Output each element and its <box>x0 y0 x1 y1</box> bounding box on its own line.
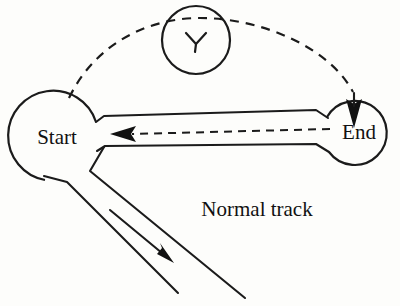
start-label: Start <box>37 125 77 149</box>
node-waypoint[interactable] <box>162 6 230 74</box>
waypoint-chevron-icon <box>186 33 206 44</box>
diverging-track-rails <box>44 147 245 298</box>
dashed-arc-path <box>69 18 353 98</box>
normal-track-lower-rail <box>97 144 329 152</box>
normal-track-upper-rail <box>96 110 328 122</box>
normal-track-label: Normal track <box>201 197 313 221</box>
diverging-track-outer-rail <box>44 176 178 293</box>
dashed-return-path <box>132 129 330 134</box>
waypoint-chevron-stem <box>195 44 196 52</box>
waypoint-circle-outline <box>162 6 230 74</box>
diverging-track-inner-rail <box>90 147 245 298</box>
diagonal-arrow-head <box>157 243 174 263</box>
node-start[interactable]: Start <box>8 91 96 180</box>
diagonal-arrow-down-right-icon <box>110 210 174 263</box>
dashed-return-edge <box>110 126 330 142</box>
end-label: End <box>342 120 376 144</box>
track-diagram: Start End Normal track <box>0 0 400 306</box>
diagram-canvas: Start End Normal track <box>0 0 400 306</box>
